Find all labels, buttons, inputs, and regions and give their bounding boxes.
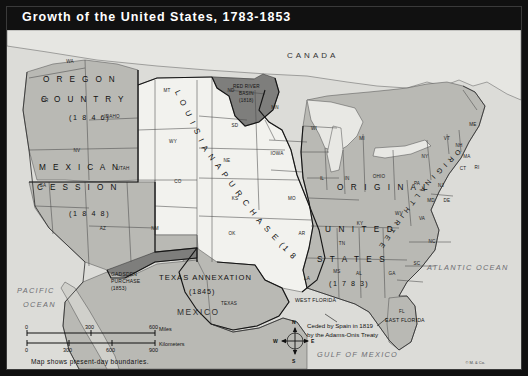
footer-note: Map shows present-day boundaries. <box>31 358 149 366</box>
state-label-co: CO <box>174 179 182 184</box>
page-title: Growth of the United States, 1783-1853 <box>22 10 291 24</box>
state-label-pa: PA <box>414 181 421 186</box>
map-canvas: CANADA MEXICO PACIFIC OCEAN ATLANTIC OCE… <box>7 30 521 369</box>
label-mexican-cession-year: (1 8 4 8) <box>69 209 110 218</box>
state-label-sd: SD <box>232 123 239 128</box>
state-label-nh: NH <box>455 143 462 148</box>
state-label-ma: MA <box>463 154 471 159</box>
state-label-nj: NJ <box>438 183 444 188</box>
state-label-me: ME <box>469 122 476 127</box>
state-label-az: AZ <box>100 226 106 231</box>
label-gadsden-purchase-line1: GADSDEN <box>111 271 137 277</box>
state-label-vt: VT <box>444 136 450 141</box>
scale-miles-tick-0: 0 <box>25 324 28 330</box>
state-label-ct: CT <box>460 166 467 171</box>
label-red-river-basin-line2: BASIN <box>239 91 254 96</box>
state-label-wy: WY <box>169 139 177 144</box>
state-label-iowa: IOWA <box>271 151 285 156</box>
label-pacific-ocean-line2: OCEAN <box>23 300 56 309</box>
state-label-ms: MS <box>333 269 340 274</box>
label-gulf-of-mexico: GULF OF MEXICO <box>317 350 398 359</box>
state-label-ohio: OHIO <box>373 174 386 179</box>
state-label-nv: NV <box>74 148 82 153</box>
label-texas-annexation-year: (1845) <box>189 287 215 296</box>
scale-km-tick-0: 0 <box>25 347 28 353</box>
state-label-ny: NY <box>422 154 429 159</box>
scale-km-tick-3: 900 <box>149 347 158 353</box>
state-label-ok: OK <box>228 231 236 236</box>
state-label-il: IL <box>320 176 324 181</box>
map-figure: Growth of the United States, 1783-1853 <box>0 0 528 376</box>
state-label-utah: UTAH <box>117 166 130 171</box>
state-label-va: VA <box>419 216 426 221</box>
state-label-md: MD <box>427 198 435 203</box>
state-label-texas: TEXAS <box>221 301 237 306</box>
annotation-line1: Ceded by Spain in 1819 <box>307 322 374 329</box>
state-label-sc: SC <box>414 261 421 266</box>
scale-miles-unit: Miles <box>159 326 172 332</box>
scale-km-unit: Kilometers <box>159 341 185 347</box>
state-label-tn: TN <box>339 241 346 246</box>
label-original-line3: S T A T E S <box>317 255 387 264</box>
copyright-mark: © M. & Co. <box>465 360 485 365</box>
state-label-nc: NC <box>428 239 436 244</box>
label-east-florida: EAST FLORIDA <box>385 317 425 323</box>
scale-miles-tick-1: 300 <box>85 324 94 330</box>
label-gadsden-purchase-year: (1853) <box>111 285 127 291</box>
state-label-mo: MO <box>288 196 296 201</box>
label-oregon-country-line2: C O U N T R Y <box>41 95 126 104</box>
state-label-ri: RI <box>475 165 480 170</box>
compass-north-label: N <box>292 319 296 325</box>
state-label-al: AL <box>356 271 362 276</box>
state-label-or: OR <box>41 98 49 103</box>
label-gadsden-purchase-line2: PURCHASE <box>111 278 141 284</box>
compass-west-label: W <box>273 338 278 344</box>
label-original-line2: U N I T E D <box>325 225 395 234</box>
state-label-wi: WI <box>311 126 317 131</box>
label-mexican-cession-line1: M E X I C A N <box>39 163 120 172</box>
label-mexican-cession-line2: C E S S I O N <box>37 183 119 192</box>
state-label-ky: KY <box>357 221 364 226</box>
label-west-florida: WEST FLORIDA <box>295 297 337 303</box>
state-label-la: LA <box>304 276 311 281</box>
label-canada: CANADA <box>287 51 338 60</box>
scale-km-tick-1: 300 <box>63 347 72 353</box>
state-label-mt: MT <box>163 88 170 93</box>
state-label-ar: AR <box>299 231 306 236</box>
state-label-in: IN <box>345 176 350 181</box>
state-label-ca: CA <box>40 183 48 188</box>
state-label-mn: MN <box>271 105 279 110</box>
scale-miles-tick-2: 600 <box>149 324 158 330</box>
scale-km-tick-2: 600 <box>106 347 115 353</box>
state-label-nd: ND <box>227 88 235 93</box>
state-label-fl: FL <box>399 309 405 314</box>
title-banner: Growth of the United States, 1783-1853 <box>6 6 522 30</box>
state-label-nm: NM <box>151 226 159 231</box>
label-texas-annexation: TEXAS ANNEXATION <box>159 273 252 282</box>
state-label-ne: NE <box>224 158 231 163</box>
state-label-ks: KS <box>232 196 239 201</box>
annotation-line2: by the Adams-Onis Treaty <box>307 331 379 338</box>
label-oregon-country-line1: O R E G O N <box>43 75 117 84</box>
state-label-ga: GA <box>388 271 396 276</box>
state-label-wa: WA <box>66 59 74 64</box>
state-label-wv: WV <box>395 211 404 216</box>
label-mexico: MEXICO <box>177 307 220 317</box>
state-label-idaho: IDAHO <box>104 114 120 119</box>
state-label-de: DE <box>444 198 451 203</box>
label-red-river-basin-year: (1818) <box>239 98 254 103</box>
label-original-year: (1 7 8 3) <box>329 279 369 288</box>
state-label-mi: MI <box>359 136 365 141</box>
label-red-river-basin-line1: RED RIVER <box>233 84 260 89</box>
label-atlantic-ocean: ATLANTIC OCEAN <box>426 263 509 272</box>
label-pacific-ocean-line1: PACIFIC <box>17 286 55 295</box>
